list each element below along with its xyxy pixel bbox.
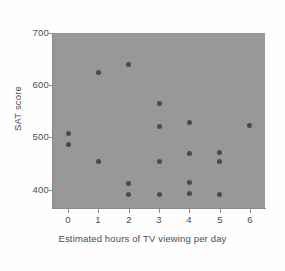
data-point bbox=[126, 62, 131, 67]
y-tick-label: 700 bbox=[19, 28, 49, 38]
x-tick-label: 2 bbox=[119, 214, 139, 225]
y-tick-label: 500 bbox=[19, 132, 49, 142]
x-tick-label: 0 bbox=[58, 214, 78, 225]
plot-area bbox=[53, 33, 265, 208]
y-tick-mark bbox=[49, 137, 53, 138]
data-point bbox=[66, 131, 71, 136]
y-tick-mark bbox=[49, 33, 53, 34]
x-tick-mark bbox=[220, 209, 221, 213]
data-point bbox=[217, 159, 222, 164]
y-axis-line bbox=[52, 33, 53, 209]
data-point bbox=[217, 150, 222, 155]
data-point bbox=[126, 181, 131, 186]
data-point bbox=[157, 159, 162, 164]
data-point bbox=[217, 192, 222, 197]
x-tick-mark bbox=[68, 209, 69, 213]
x-tick-label: 3 bbox=[149, 214, 169, 225]
data-point bbox=[187, 191, 192, 196]
data-point bbox=[66, 142, 71, 147]
x-tick-mark bbox=[250, 209, 251, 213]
data-point bbox=[157, 101, 162, 106]
data-point bbox=[187, 151, 192, 156]
data-point bbox=[126, 192, 131, 197]
data-point bbox=[96, 70, 101, 75]
y-axis-title: SAT score bbox=[12, 59, 23, 159]
y-tick-mark bbox=[49, 85, 53, 86]
data-point bbox=[96, 159, 101, 164]
data-point bbox=[187, 120, 192, 125]
data-point bbox=[247, 123, 252, 128]
scatter-plot-figure: 400500600700 0123456 Estimated hours of … bbox=[0, 0, 285, 271]
x-tick-mark bbox=[189, 209, 190, 213]
data-point bbox=[187, 180, 192, 185]
x-axis-title: Estimated hours of TV viewing per day bbox=[0, 233, 285, 244]
x-tick-label: 5 bbox=[210, 214, 230, 225]
x-tick-label: 1 bbox=[88, 214, 108, 225]
data-point bbox=[157, 124, 162, 129]
x-tick-label: 6 bbox=[240, 214, 260, 225]
x-tick-label: 4 bbox=[179, 214, 199, 225]
x-tick-mark bbox=[159, 209, 160, 213]
y-tick-label: 400 bbox=[19, 185, 49, 195]
data-point bbox=[157, 192, 162, 197]
x-tick-mark bbox=[129, 209, 130, 213]
x-tick-mark bbox=[98, 209, 99, 213]
y-tick-label: 600 bbox=[19, 80, 49, 90]
y-tick-mark bbox=[49, 190, 53, 191]
